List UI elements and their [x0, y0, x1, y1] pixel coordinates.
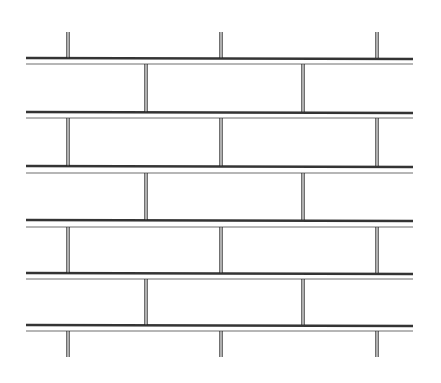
bed-joint-thick-line	[26, 325, 413, 326]
bed-joint-thick-line	[26, 112, 413, 113]
bed-joint-thick-line	[26, 273, 413, 274]
bed-joint-thick-line	[26, 220, 413, 221]
bed-joint-thick-line	[26, 58, 413, 59]
brick-pattern-drawing	[0, 0, 441, 383]
bed-joint-thick-line	[26, 166, 413, 167]
